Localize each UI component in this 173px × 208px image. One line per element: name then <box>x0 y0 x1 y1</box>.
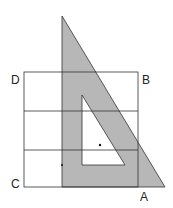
label-c: C <box>11 178 20 190</box>
set-square <box>62 16 165 187</box>
label-b: B <box>142 74 150 86</box>
label-a: A <box>140 191 148 203</box>
dot-inner <box>99 144 101 146</box>
label-d: D <box>11 74 20 86</box>
diagram-canvas <box>0 0 173 208</box>
dot-edge <box>61 164 63 166</box>
